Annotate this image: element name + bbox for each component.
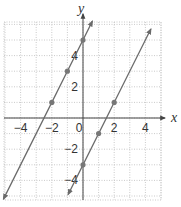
data-point [65, 69, 70, 74]
x-tick-label: −2 [45, 121, 59, 135]
x-tick-label: 4 [142, 121, 149, 135]
data-point [80, 37, 85, 42]
plotted-line [68, 29, 151, 194]
data-point [112, 100, 117, 105]
coordinate-plane: −4−2024−4−224 x y [0, 0, 181, 207]
y-axis-label: y [76, 1, 85, 16]
y-tick-label: −2 [64, 142, 78, 156]
x-tick-label: 2 [111, 121, 118, 135]
y-tick-label: 2 [71, 80, 78, 94]
data-point [80, 162, 85, 167]
y-tick-label: −4 [64, 173, 78, 187]
data-point [96, 131, 101, 136]
x-tick-label: 0 [76, 121, 83, 135]
x-tick-label: −4 [14, 121, 28, 135]
x-axis-label: x [170, 110, 178, 125]
data-point [49, 100, 54, 105]
